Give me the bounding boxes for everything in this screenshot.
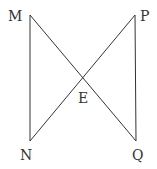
segment-PQ bbox=[135, 15, 136, 141]
point-label-E: E bbox=[78, 90, 88, 106]
diagram-canvas: M P N Q E bbox=[0, 0, 157, 169]
point-label-P: P bbox=[140, 8, 149, 24]
point-label-Q: Q bbox=[132, 147, 143, 163]
point-label-N: N bbox=[20, 147, 32, 163]
geometry-diagram: M P N Q E bbox=[0, 0, 157, 169]
point-label-M: M bbox=[8, 8, 22, 24]
